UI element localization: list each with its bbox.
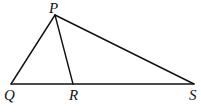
label-p: P [48,0,58,16]
label-r: R [68,87,78,103]
label-s: S [189,87,197,103]
segment-pr [55,15,73,84]
segment-pq [11,15,55,84]
triangle-diagram: P Q R S [0,0,201,112]
label-q: Q [4,87,15,103]
segment-ps [55,15,194,84]
